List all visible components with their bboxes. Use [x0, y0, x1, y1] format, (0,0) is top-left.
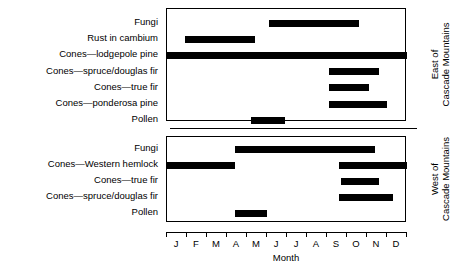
row-label: Fungi: [134, 143, 158, 153]
row-label: Cones—spruce/douglas fir: [46, 66, 158, 76]
timeline-bar: [167, 52, 407, 59]
x-axis-month-label: J: [294, 238, 299, 249]
row-label: Cones—true fir: [94, 175, 158, 185]
west-row-label-column: FungiCones—Western hemlockCones—true fir…: [0, 136, 158, 222]
x-axis-tick: [406, 232, 407, 237]
west-side-label-line1: West of: [429, 163, 440, 195]
x-axis-month-label: J: [274, 238, 279, 249]
x-axis-tick: [206, 232, 207, 237]
x-axis-month-label: J: [174, 238, 179, 249]
x-axis-month-label: D: [393, 238, 400, 249]
x-axis-tick: [246, 232, 247, 237]
row-label: Cones—lodgepole pine: [59, 49, 158, 59]
timeline-bar: [339, 194, 393, 201]
timeline-bar: [341, 178, 379, 185]
x-axis-month-label: O: [352, 238, 359, 249]
x-axis-tick: [326, 232, 327, 237]
east-side-label-line2: Cascade Mountains: [440, 8, 451, 121]
row-label: Fungi: [134, 17, 158, 27]
x-axis-month-label: M: [252, 238, 260, 249]
west-plot-panel: [166, 136, 406, 222]
east-side-label: East of Cascade Mountains: [429, 8, 451, 121]
row-label: Pollen: [132, 207, 158, 217]
row-label: Pollen: [132, 114, 158, 124]
x-axis-tick: [346, 232, 347, 237]
timeline-bar: [339, 162, 407, 169]
x-axis-tick: [226, 232, 227, 237]
timeline-bar: [329, 101, 387, 108]
timeline-bar: [167, 162, 235, 169]
timeline-bar: [329, 84, 369, 91]
row-label: Cones—ponderosa pine: [56, 98, 158, 108]
x-axis-tick: [186, 232, 187, 237]
x-axis-tick: [266, 232, 267, 237]
timeline-bar: [185, 36, 255, 43]
timeline-bar: [269, 20, 359, 27]
row-label: Rust in cambium: [87, 33, 158, 43]
x-axis-tick: [166, 232, 167, 237]
x-axis-month-label: M: [212, 238, 220, 249]
east-row-label-column: FungiRust in cambiumCones—lodgepole pine…: [0, 8, 158, 121]
panel-separator: [170, 128, 417, 129]
west-side-label-line2: Cascade Mountains: [440, 136, 451, 222]
x-axis-month-label: A: [233, 238, 239, 249]
x-axis-tick: [306, 232, 307, 237]
east-plot-panel: [166, 8, 406, 121]
x-axis-tick: [386, 232, 387, 237]
x-axis-month-label: F: [193, 238, 199, 249]
x-axis-month-label: S: [333, 238, 339, 249]
timeline-bar: [235, 146, 375, 153]
row-label: Cones—Western hemlock: [48, 159, 158, 169]
east-side-label-line1: East of: [429, 50, 440, 80]
x-axis-tick: [286, 232, 287, 237]
x-axis-title: Month: [166, 252, 406, 263]
x-axis-month-label: A: [313, 238, 319, 249]
timeline-bar: [251, 117, 285, 124]
x-axis-month-label: N: [373, 238, 380, 249]
row-label: Cones—true fir: [94, 82, 158, 92]
figure-seasonal-activity-chart: FungiRust in cambiumCones—lodgepole pine…: [0, 0, 474, 279]
west-side-label: West of Cascade Mountains: [429, 136, 451, 222]
timeline-bar: [235, 210, 267, 217]
timeline-bar: [329, 68, 379, 75]
x-axis-tick: [366, 232, 367, 237]
row-label: Cones—spruce/douglas fir: [46, 191, 158, 201]
